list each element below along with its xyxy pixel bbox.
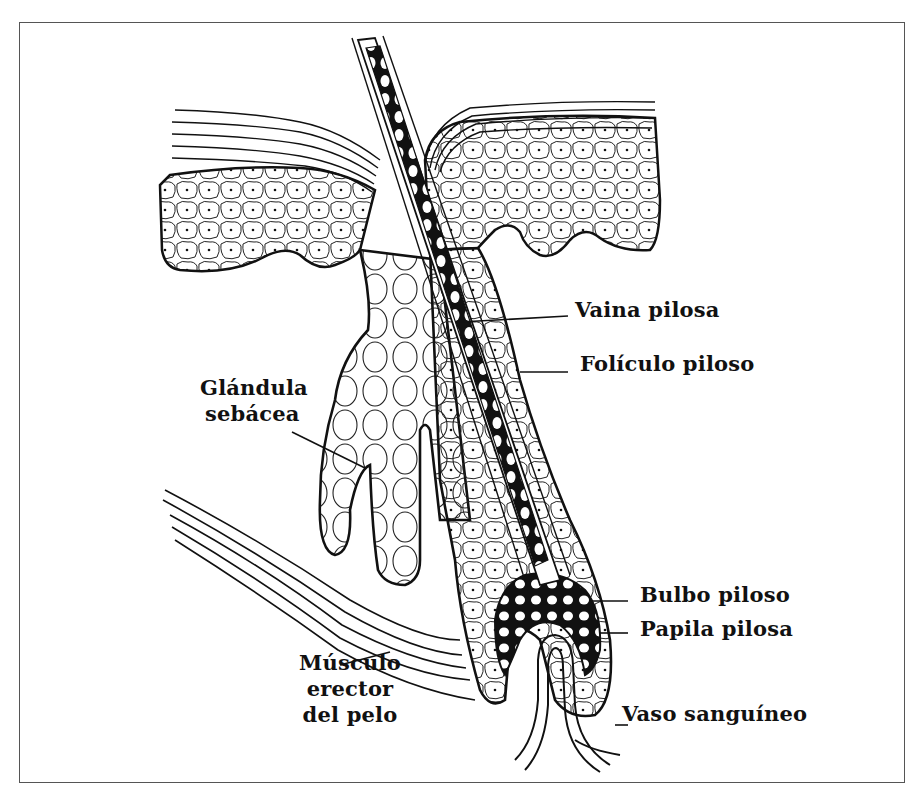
label-bulbo-piloso: Bulbo piloso [640, 582, 790, 607]
label-musculo-line3: del pelo [290, 702, 410, 727]
label-papila-pilosa: Papila pilosa [640, 616, 793, 641]
epidermis-right [425, 102, 660, 256]
epidermis-left [160, 110, 380, 271]
label-musculo-line2: erector [290, 676, 410, 701]
label-musculo-line1: Músculo [290, 650, 410, 675]
label-glandula-sebacea-line2: sebácea [205, 401, 300, 426]
hair-follicle-illustration [0, 0, 923, 804]
label-glandula-sebacea-line1: Glándula [200, 375, 308, 400]
label-vaso-sanguineo: Vaso sanguíneo [622, 701, 807, 726]
label-vaina-pilosa: Vaina pilosa [575, 297, 720, 322]
label-foliculo-piloso: Folículo piloso [580, 351, 755, 376]
